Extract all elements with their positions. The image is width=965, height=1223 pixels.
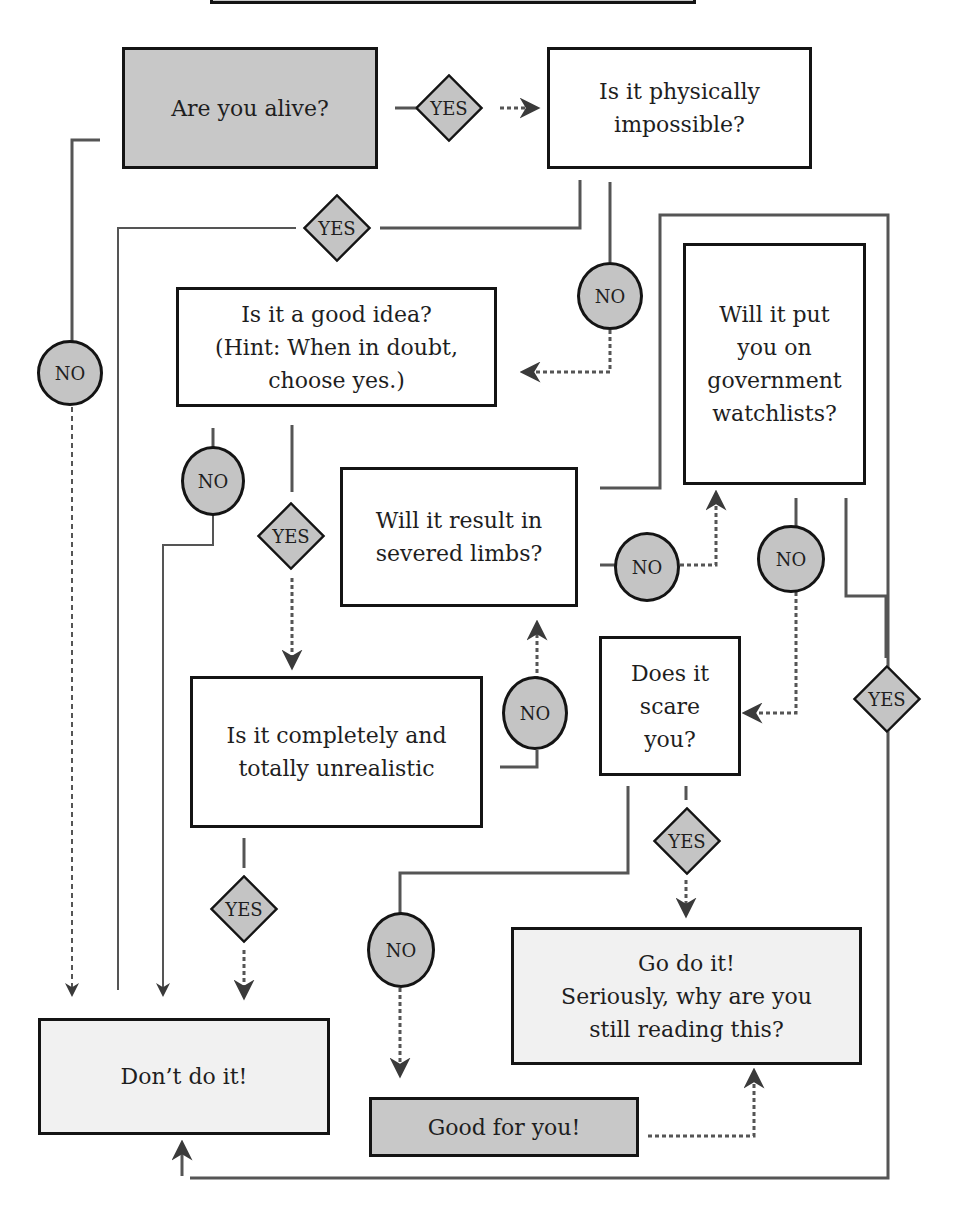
no-label: NO xyxy=(776,549,807,570)
yes-label: YES xyxy=(260,505,322,567)
yes-diamond-unrealistic: YES xyxy=(213,878,275,940)
no-circle-alive: NO xyxy=(37,340,103,406)
node-severed-limbs: Will it result in severed limbs? xyxy=(340,467,578,607)
no-label: NO xyxy=(520,703,551,724)
node-watchlists: Will it put you on government watchlists… xyxy=(683,243,866,485)
no-circle-physically-impossible: NO xyxy=(577,262,643,330)
node-label: Good for you! xyxy=(428,1111,581,1144)
node-label: Will it put you on government watchlists… xyxy=(707,298,841,430)
no-circle-watchlists: NO xyxy=(757,525,825,593)
node-go-do-it: Go do it! Seriously, why are you still r… xyxy=(511,927,862,1065)
node-label: Will it result in severed limbs? xyxy=(376,504,542,570)
node-physically-impossible: Is it physically impossible? xyxy=(547,47,812,169)
node-label: Are you alive? xyxy=(171,92,329,125)
node-does-it-scare-you: Does it scare you? xyxy=(599,636,741,776)
no-circle-scare: NO xyxy=(367,912,435,988)
node-label: Go do it! Seriously, why are you still r… xyxy=(561,947,812,1046)
no-label: NO xyxy=(198,471,229,492)
yes-diamond-physically-impossible: YES xyxy=(306,197,368,259)
node-unrealistic: Is it completely and totally unrealistic xyxy=(190,676,483,828)
flowchart: Are you alive? Is it physically impossib… xyxy=(0,0,965,1223)
node-label: Don’t do it! xyxy=(121,1060,248,1093)
node-are-you-alive: Are you alive? xyxy=(122,47,378,169)
node-label: Is it completely and totally unrealistic xyxy=(226,719,446,785)
node-label: Does it scare you? xyxy=(631,657,709,756)
no-label: NO xyxy=(55,363,86,384)
node-dont-do-it: Don’t do it! xyxy=(38,1018,330,1135)
no-label: NO xyxy=(632,557,663,578)
yes-label: YES xyxy=(418,77,480,139)
node-label: Is it physically impossible? xyxy=(599,75,760,141)
yes-label: YES xyxy=(306,197,368,259)
node-good-for-you: Good for you! xyxy=(369,1097,639,1157)
yes-diamond-scare: YES xyxy=(656,810,718,872)
yes-label: YES xyxy=(656,810,718,872)
no-circle-severed-limbs: NO xyxy=(614,532,680,602)
yes-label: YES xyxy=(856,668,918,730)
yes-diamond-alive: YES xyxy=(418,77,480,139)
no-label: NO xyxy=(386,940,417,961)
no-circle-unrealistic: NO xyxy=(502,676,568,750)
no-label: NO xyxy=(595,286,626,307)
yes-diamond-watchlists: YES xyxy=(856,668,918,730)
yes-diamond-good-idea: YES xyxy=(260,505,322,567)
yes-label: YES xyxy=(213,878,275,940)
node-label: Is it a good idea? (Hint: When in doubt,… xyxy=(215,298,458,397)
node-good-idea: Is it a good idea? (Hint: When in doubt,… xyxy=(176,287,497,407)
no-circle-good-idea: NO xyxy=(181,446,245,516)
